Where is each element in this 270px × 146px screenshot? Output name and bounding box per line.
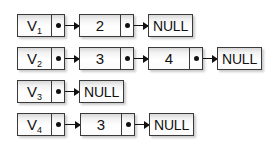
list-node-r2-n1-value: 3 bbox=[96, 51, 104, 66]
arrow-r2-n2-to-null bbox=[203, 58, 217, 60]
null-terminator-r4-label: NULL bbox=[154, 118, 189, 132]
pointer-dot-icon bbox=[56, 122, 61, 127]
null-terminator-r1-label: NULL bbox=[153, 19, 188, 33]
head-node-v3-label: V3 bbox=[27, 84, 42, 99]
list-node-r1-n1-data: 2 bbox=[80, 15, 120, 36]
pointer-dot-icon bbox=[194, 56, 199, 61]
head-node-v1-pointer-cell bbox=[51, 15, 64, 36]
pointer-dot-icon bbox=[125, 56, 130, 61]
arrow-v2-to-node1 bbox=[65, 58, 79, 60]
arrow-r4-n1-to-null bbox=[135, 124, 149, 126]
head-node-v4-pointer-cell bbox=[51, 114, 64, 135]
arrow-v1-to-node1 bbox=[65, 25, 79, 27]
list-node-r4-n1: 3 bbox=[80, 113, 135, 136]
list-node-r2-n1-data: 3 bbox=[80, 48, 120, 69]
arrow-r2-n1-to-n2 bbox=[134, 58, 148, 60]
head-node-v3: V3 bbox=[17, 80, 65, 103]
head-node-v4-label: V4 bbox=[27, 117, 42, 132]
list-node-r4-n1-pointer-cell bbox=[121, 114, 134, 135]
null-terminator-r4: NULL bbox=[149, 113, 194, 136]
null-terminator-r1: NULL bbox=[148, 14, 193, 37]
linked-list-diagram: V1 2 NULL V bbox=[0, 0, 270, 146]
pointer-dot-icon bbox=[56, 89, 61, 94]
arrow-v3-to-null bbox=[65, 91, 79, 93]
arrow-v4-to-node1 bbox=[65, 124, 80, 126]
head-node-v1: V1 bbox=[17, 14, 65, 37]
head-node-v2-data: V2 bbox=[18, 48, 51, 69]
list-node-r4-n1-data: 3 bbox=[81, 114, 121, 135]
list-node-r2-n2: 4 bbox=[148, 47, 203, 70]
list-node-r2-n1-pointer-cell bbox=[120, 48, 133, 69]
head-node-v2-pointer-cell bbox=[51, 48, 64, 69]
adjacency-row-v1: V1 2 NULL bbox=[17, 14, 193, 37]
list-node-r2-n2-pointer-cell bbox=[189, 48, 202, 69]
list-node-r2-n2-data: 4 bbox=[149, 48, 189, 69]
head-node-v2: V2 bbox=[17, 47, 65, 70]
list-node-r2-n1: 3 bbox=[79, 47, 134, 70]
arrow-r1-n1-to-null bbox=[134, 25, 148, 27]
list-node-r1-n1: 2 bbox=[79, 14, 134, 37]
head-node-v3-data: V3 bbox=[18, 81, 51, 102]
list-node-r2-n2-value: 4 bbox=[165, 51, 173, 66]
pointer-dot-icon bbox=[125, 23, 130, 28]
list-node-r4-n1-value: 3 bbox=[97, 117, 105, 132]
adjacency-row-v4: V4 3 NULL bbox=[17, 113, 194, 136]
null-terminator-r2-label: NULL bbox=[222, 52, 257, 66]
head-node-v2-label: V2 bbox=[27, 51, 42, 66]
null-terminator-r3-label: NULL bbox=[84, 85, 119, 99]
head-node-v1-data: V1 bbox=[18, 15, 51, 36]
null-terminator-r2: NULL bbox=[217, 47, 262, 70]
null-terminator-r3: NULL bbox=[79, 80, 124, 103]
adjacency-row-v2: V2 3 4 bbox=[17, 47, 262, 70]
pointer-dot-icon bbox=[56, 23, 61, 28]
head-node-v4-data: V4 bbox=[18, 114, 51, 135]
pointer-dot-icon bbox=[56, 56, 61, 61]
head-node-v3-pointer-cell bbox=[51, 81, 64, 102]
adjacency-row-v3: V3 NULL bbox=[17, 80, 124, 103]
list-node-r1-n1-value: 2 bbox=[96, 18, 104, 33]
head-node-v1-label: V1 bbox=[27, 18, 42, 33]
pointer-dot-icon bbox=[126, 122, 131, 127]
list-node-r1-n1-pointer-cell bbox=[120, 15, 133, 36]
head-node-v4: V4 bbox=[17, 113, 65, 136]
